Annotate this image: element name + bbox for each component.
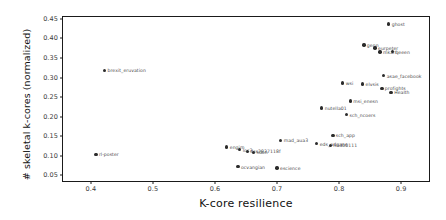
data-point <box>225 145 228 148</box>
y-tick-mark <box>60 18 63 19</box>
data-point <box>341 81 344 84</box>
x-axis-label: K-core resilience <box>62 197 430 210</box>
data-point <box>378 50 381 53</box>
data-point <box>373 46 376 49</box>
data-point <box>349 99 352 102</box>
data-point-label: qeeen <box>395 49 410 54</box>
x-tick-mark <box>90 181 91 184</box>
data-point <box>94 153 97 156</box>
data-point-label: ocvangian <box>241 164 265 169</box>
data-point-label: asae_facebook <box>387 73 422 78</box>
data-point-label: elvsis <box>366 82 379 87</box>
data-point <box>238 148 241 151</box>
x-tick-mark <box>152 181 153 184</box>
data-point <box>331 134 334 137</box>
data-point <box>275 166 278 169</box>
data-point <box>389 91 392 94</box>
data-point <box>361 82 364 85</box>
data-point <box>380 87 383 90</box>
data-point <box>382 74 385 77</box>
data-point <box>246 150 249 153</box>
data-point-label: escience <box>280 166 301 171</box>
y-tick-mark <box>60 77 63 78</box>
y-tick-mark <box>60 175 63 176</box>
data-point <box>329 144 332 147</box>
data-point-label: nutella01 <box>325 105 347 110</box>
data-point <box>103 69 106 72</box>
data-point-label: sch_app <box>336 133 355 138</box>
data-point <box>387 22 390 25</box>
y-tick-mark <box>60 38 63 39</box>
data-point-label: wsi <box>346 80 354 85</box>
y-tick-mark <box>60 116 63 117</box>
data-point-label: rl-poster <box>99 152 119 157</box>
data-point-label: msi_enesn <box>353 98 378 103</box>
y-tick-mark <box>60 97 63 98</box>
data-point-label: sdon <box>256 150 267 155</box>
x-tick-mark <box>339 181 340 184</box>
y-tick-mark <box>60 136 63 137</box>
data-point-label: sch_ncoers <box>349 112 375 117</box>
x-tick-mark <box>214 181 215 184</box>
data-point-label: Health <box>394 90 409 95</box>
scatter-plot-figure: 0.050.100.150.200.250.300.350.400.450.40… <box>0 0 446 220</box>
y-axis-label: # skeletal k-cores (normalized) <box>21 10 32 200</box>
data-point <box>279 139 282 142</box>
data-point-label: ghost <box>392 22 405 27</box>
data-point-label: brexit_eruvation <box>108 68 146 73</box>
y-tick-mark <box>60 155 63 156</box>
data-point-label: mad_aua3 <box>284 138 308 143</box>
x-tick-mark <box>277 181 278 184</box>
data-point <box>236 165 239 168</box>
data-point <box>320 106 323 109</box>
data-point <box>345 113 348 116</box>
y-tick-mark <box>60 58 63 59</box>
plot-area: 0.050.100.150.200.250.300.350.400.450.40… <box>62 16 430 182</box>
data-point <box>315 142 318 145</box>
data-point <box>362 43 365 46</box>
x-tick-mark <box>401 181 402 184</box>
data-point-label: hndb0111 <box>333 143 357 148</box>
